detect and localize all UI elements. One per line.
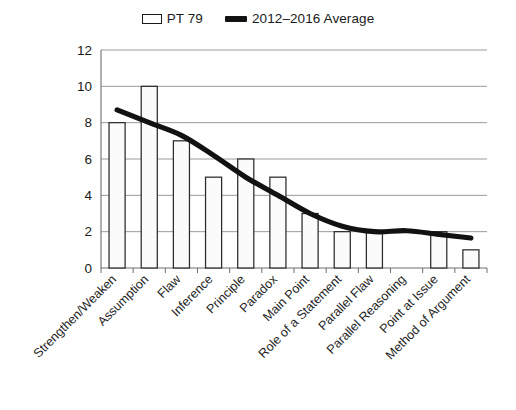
y-axis-tick-label: 8: [84, 115, 92, 130]
bar: [173, 141, 189, 268]
bar: [463, 250, 479, 268]
y-axis-tick-label: 6: [84, 152, 92, 167]
x-axis-category-label: Flaw: [155, 272, 184, 301]
x-axis-tick-marks: [101, 268, 487, 273]
average-line-series: [117, 110, 471, 238]
bar: [206, 177, 222, 268]
y-axis-tick-labels: 024681012: [77, 43, 93, 276]
x-axis-category-labels: Strengthen/WeakenAssumptionFlawInference…: [31, 272, 474, 363]
bar-series-pt79: [109, 86, 479, 268]
bar: [141, 86, 157, 268]
plot-area: 024681012 Strengthen/WeakenAssumptionFla…: [0, 0, 516, 410]
y-axis-tick-label: 4: [84, 188, 92, 203]
y-axis-tick-label: 0: [84, 261, 92, 276]
bar: [334, 232, 350, 268]
bar: [302, 214, 318, 269]
y-axis-tick-label: 2: [84, 224, 92, 239]
question-type-frequency-chart: PT 79 2012–2016 Average 024681012 Streng…: [0, 0, 516, 410]
bar: [366, 232, 382, 268]
y-axis-tick-label: 10: [77, 79, 92, 94]
bar: [109, 123, 125, 268]
plot-svg: 024681012 Strengthen/WeakenAssumptionFla…: [0, 0, 516, 410]
y-axis-tick-label: 12: [77, 43, 92, 58]
